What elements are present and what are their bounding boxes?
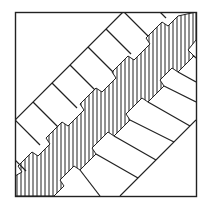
hatched-stepped-band (15, 12, 196, 196)
lower-boundary-line (120, 120, 196, 196)
diagram-figure (0, 0, 213, 212)
diagram-content (15, 12, 196, 196)
